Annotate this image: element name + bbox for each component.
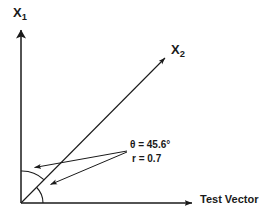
x2-vector-label-subscript: 2 — [180, 49, 185, 59]
r-arc — [37, 188, 43, 203]
r-annotation: r = 0.7 — [132, 154, 161, 164]
theta-arc — [21, 171, 44, 180]
x2-vector-label-main: X — [171, 42, 180, 57]
theta-leader-line — [35, 151, 128, 168]
theta-annotation: θ = 45.6° — [130, 140, 170, 150]
x2-vector-line — [21, 58, 165, 203]
figure-canvas: X1 X2 Test Vector θ = 45.6° r = 0.7 — [0, 0, 266, 218]
y-axis-label: X1 — [13, 6, 27, 22]
y-axis-label-subscript: 1 — [22, 12, 27, 22]
x-axis-label: Test Vector — [200, 194, 259, 205]
r-leader-line — [51, 152, 128, 185]
x2-vector-label: X2 — [171, 43, 185, 59]
vector-diagram — [0, 0, 266, 218]
y-axis-label-main: X — [13, 5, 22, 20]
